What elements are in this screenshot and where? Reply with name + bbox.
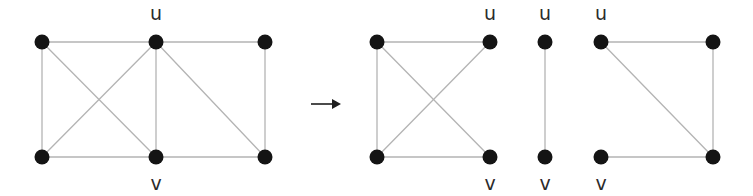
- graph-node: [35, 150, 50, 165]
- graph-node: [483, 150, 498, 165]
- vertex-label-v: v: [539, 172, 550, 194]
- vertex-label-u: u: [539, 2, 551, 24]
- graph-node: [594, 150, 609, 165]
- graph-node: [149, 35, 164, 50]
- vertex-label-v: v: [484, 172, 495, 194]
- graph-node: [370, 150, 385, 165]
- graph-edge: [156, 42, 265, 157]
- graph-edge: [601, 42, 713, 157]
- figure-canvas: uvuvuvuv: [0, 0, 753, 196]
- graph-node: [483, 35, 498, 50]
- vertex-label-v: v: [595, 172, 606, 194]
- graph-node: [594, 35, 609, 50]
- graph-node: [370, 35, 385, 50]
- graph-node: [149, 150, 164, 165]
- graph-decomposition-figure: uvuvuvuv: [0, 0, 753, 196]
- vertex-labels-layer: uvuvuvuv: [150, 2, 607, 194]
- arrow-head: [332, 99, 341, 109]
- edges-layer: [42, 42, 713, 157]
- vertex-label-u: u: [484, 2, 496, 24]
- graph-node: [35, 35, 50, 50]
- vertex-label-u: u: [595, 2, 607, 24]
- graph-node: [258, 35, 273, 50]
- graph-node: [538, 150, 553, 165]
- graph-node: [538, 35, 553, 50]
- implies-arrow: [311, 99, 341, 109]
- graph-node: [706, 35, 721, 50]
- vertex-label-u: u: [150, 2, 162, 24]
- graph-node: [258, 150, 273, 165]
- vertex-label-v: v: [150, 172, 161, 194]
- graph-node: [706, 150, 721, 165]
